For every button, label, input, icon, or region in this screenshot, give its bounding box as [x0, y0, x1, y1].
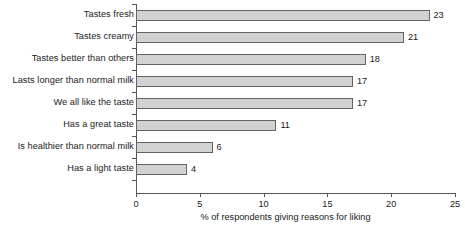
- y-tick-0: [132, 4, 136, 5]
- category-label-has-a-light-taste: Has a light taste: [0, 163, 134, 174]
- y-tick-4: [132, 92, 136, 93]
- x-tick-5: [200, 193, 201, 197]
- y-tick-5: [132, 114, 136, 115]
- x-tick-label-15: 15: [322, 199, 332, 210]
- category-label-lasts-longer-than-normal-milk: Lasts longer than normal milk: [0, 75, 134, 86]
- bar-is-healthier-than-normal-milk: [136, 142, 213, 153]
- y-tick-3: [132, 70, 136, 71]
- x-tick-15: [327, 193, 328, 197]
- x-tick-0: [136, 193, 137, 197]
- category-label-is-healthier-than-normal-milk: Is healthier than normal milk: [0, 141, 134, 152]
- bar-value-lasts-longer-than-normal-milk: 17: [357, 76, 367, 87]
- category-label-tastes-creamy: Tastes creamy: [0, 31, 134, 42]
- bar-value-is-healthier-than-normal-milk: 6: [217, 142, 222, 153]
- x-tick-20: [391, 193, 392, 197]
- category-label-we-all-like-the-taste: We all like the taste: [0, 97, 134, 108]
- bar-chart: Tastes fresh Tastes creamy Tastes better…: [0, 0, 465, 230]
- y-tick-8: [132, 180, 136, 181]
- bar-tastes-better-than-others: [136, 54, 366, 65]
- y-tick-1: [132, 26, 136, 27]
- category-label-has-a-great-taste: Has a great taste: [0, 119, 134, 130]
- bar-value-tastes-better-than-others: 18: [370, 54, 380, 65]
- x-tick-label-20: 20: [386, 199, 396, 210]
- bar-we-all-like-the-taste: [136, 98, 353, 109]
- bar-value-tastes-creamy: 21: [408, 32, 418, 43]
- bar-has-a-great-taste: [136, 120, 276, 131]
- bar-value-has-a-great-taste: 11: [280, 120, 290, 131]
- plot-area: 23 21 18 17 17 11 6 4 0 5 10 15 20 25: [136, 4, 455, 193]
- x-tick-25: [455, 193, 456, 197]
- bar-lasts-longer-than-normal-milk: [136, 76, 353, 87]
- y-tick-6: [132, 136, 136, 137]
- category-label-tastes-better-than-others: Tastes better than others: [0, 53, 134, 64]
- bar-value-has-a-light-taste: 4: [191, 164, 196, 175]
- x-axis-line: [136, 193, 455, 194]
- x-axis-title: % of respondents giving reasons for liki…: [0, 212, 465, 223]
- x-tick-label-25: 25: [450, 199, 460, 210]
- bar-tastes-creamy: [136, 32, 404, 43]
- bar-value-tastes-fresh: 23: [434, 10, 444, 21]
- x-tick-label-0: 0: [133, 199, 138, 210]
- y-tick-2: [132, 48, 136, 49]
- bar-has-a-light-taste: [136, 164, 187, 175]
- x-tick-10: [264, 193, 265, 197]
- x-tick-label-10: 10: [258, 199, 268, 210]
- x-axis-title-text: % of respondents giving reasons for liki…: [94, 212, 370, 223]
- category-label-tastes-fresh: Tastes fresh: [0, 9, 134, 20]
- bar-tastes-fresh: [136, 10, 430, 21]
- x-tick-label-5: 5: [197, 199, 202, 210]
- bar-value-we-all-like-the-taste: 17: [357, 98, 367, 109]
- y-tick-7: [132, 158, 136, 159]
